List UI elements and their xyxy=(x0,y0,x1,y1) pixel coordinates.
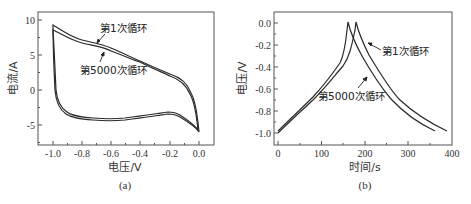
panel-b: 0 100 200 300 400 0.0 -0.2 -0.4 -0.6 -0.… xyxy=(236,12,460,192)
x-tick-label: 100 xyxy=(314,148,329,159)
y-tick-label: -5 xyxy=(27,120,35,131)
y-tick-labels-a: 10 5 0 -5 xyxy=(25,15,35,131)
y-tick-label: -1.0 xyxy=(255,128,271,139)
y-tick-label: -0.8 xyxy=(255,106,271,117)
caption-a: (a) xyxy=(119,179,132,192)
y-ticks-b xyxy=(274,23,278,133)
x-tick-label: -0.2 xyxy=(162,148,178,159)
x-tick-label: 0 xyxy=(276,148,281,159)
y-tick-label: -0.2 xyxy=(255,40,271,51)
x-ticks-b xyxy=(278,141,430,145)
x-tick-label: 300 xyxy=(401,148,416,159)
x-tick-label: 400 xyxy=(445,148,460,159)
y-tick-labels-b: 0.0 -0.2 -0.4 -0.6 -0.8 -1.0 xyxy=(255,18,271,139)
x-axis-label-a: 电压/V xyxy=(108,161,142,174)
y-tick-label: 0.0 xyxy=(259,18,272,29)
y-axis-label-a: 电流/A xyxy=(6,61,20,95)
annotation-cycle-1-a: 第1次循环 xyxy=(100,22,147,34)
x-tick-label: -0.6 xyxy=(103,148,119,159)
panel-a: -1.0 -0.8 -0.6 -0.4 -0.2 0.0 10 5 0 -5 电… xyxy=(6,12,214,192)
caption-b: (b) xyxy=(359,179,372,192)
x-tick-label: 0.0 xyxy=(193,148,206,159)
x-tick-labels-a: -1.0 -0.8 -0.6 -0.4 -0.2 0.0 xyxy=(45,148,205,159)
figure: -1.0 -0.8 -0.6 -0.4 -0.2 0.0 10 5 0 -5 电… xyxy=(0,0,471,204)
cv-curves xyxy=(53,25,199,132)
x-tick-label: -1.0 xyxy=(45,148,61,159)
y-ticks-a xyxy=(38,20,42,143)
annotation-cycle-1-b: 第1次循环 xyxy=(382,45,429,57)
curve-cycle-1-b xyxy=(278,22,447,133)
y-tick-label: 10 xyxy=(25,15,35,26)
y-tick-label: -0.4 xyxy=(255,62,271,73)
x-tick-label: -0.4 xyxy=(132,148,148,159)
x-ticks-a xyxy=(53,141,199,145)
curve-cycle-5000-b xyxy=(278,22,435,131)
gcd-curves xyxy=(278,22,447,133)
y-axis-label-b: 电压/V xyxy=(236,61,249,95)
x-tick-label: 200 xyxy=(358,148,373,159)
y-tick-label: 5 xyxy=(30,50,35,61)
x-tick-label: -0.8 xyxy=(74,148,90,159)
y-tick-label: 0 xyxy=(30,85,35,96)
y-tick-label: -0.6 xyxy=(255,84,271,95)
x-axis-label-b: 时间/s xyxy=(349,161,381,174)
annotation-cycle-5000-a: 第5000次循环 xyxy=(80,64,147,76)
annotation-cycle-5000-b: 第5000次循环 xyxy=(318,90,385,102)
x-tick-labels-b: 0 100 200 300 400 xyxy=(276,148,460,159)
